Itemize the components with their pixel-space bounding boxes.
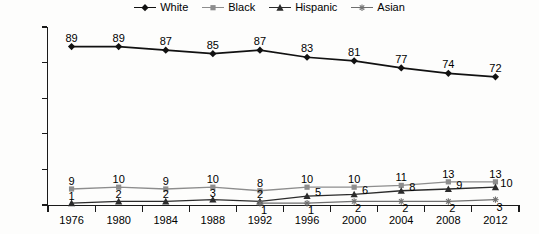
diamond-marker <box>256 47 263 54</box>
data-label-black: 9 <box>151 175 181 187</box>
data-label-asian: 2 <box>437 202 467 214</box>
diamond-marker <box>303 54 310 61</box>
data-label-hispanic: 2 <box>104 188 134 200</box>
data-label-black: 10 <box>104 173 134 185</box>
diamond-marker <box>68 43 75 50</box>
data-label-hispanic: 9 <box>444 179 474 191</box>
data-label-white: 81 <box>339 46 369 58</box>
data-label-hispanic: 1 <box>57 190 87 202</box>
data-label-asian: 1 <box>296 204 326 216</box>
data-label-asian: 2 <box>390 202 420 214</box>
data-label-white: 83 <box>292 42 322 54</box>
data-label-white: 87 <box>151 35 181 47</box>
series-line-white <box>72 47 496 77</box>
data-label-hispanic: 6 <box>350 184 380 196</box>
data-label-black: 10 <box>292 173 322 185</box>
data-label-white: 85 <box>198 39 228 51</box>
data-label-white: 77 <box>386 53 416 65</box>
data-label-white: 89 <box>104 32 134 44</box>
data-label-white: 72 <box>480 62 510 74</box>
data-label-asian: 3 <box>484 201 514 213</box>
data-label-black: 8 <box>245 177 275 189</box>
diamond-marker <box>115 43 122 50</box>
data-label-white: 89 <box>57 32 87 44</box>
diamond-marker <box>398 64 405 71</box>
data-label-hispanic: 3 <box>198 187 228 199</box>
data-label-white: 74 <box>433 58 463 70</box>
line-chart: WhiteBlackHispanicAsian 0204060801001976… <box>0 0 539 234</box>
diamond-marker <box>162 47 169 54</box>
data-label-white: 87 <box>245 35 275 47</box>
data-label-asian: 2 <box>343 202 373 214</box>
data-label-hispanic: 5 <box>303 186 333 198</box>
data-label-hispanic: 10 <box>491 177 521 189</box>
data-label-asian: 1 <box>249 204 279 216</box>
data-label-hispanic: 2 <box>245 188 275 200</box>
diamond-marker <box>351 57 358 64</box>
data-label-black: 9 <box>57 175 87 187</box>
data-label-hispanic: 8 <box>397 181 427 193</box>
data-label-black: 10 <box>198 173 228 185</box>
data-label-hispanic: 2 <box>151 188 181 200</box>
diamond-marker <box>209 50 216 57</box>
diamond-marker <box>445 70 452 77</box>
diamond-marker <box>492 73 499 80</box>
